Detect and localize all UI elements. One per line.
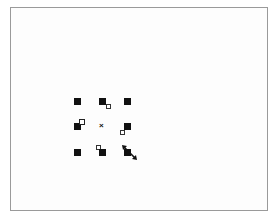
resize-handle-top-right[interactable] — [124, 98, 131, 105]
resize-handle-bottom-left[interactable] — [74, 149, 81, 156]
rotation-point-icon[interactable] — [79, 119, 85, 125]
resize-handle-top-left[interactable] — [74, 98, 81, 105]
resize-cursor-icon — [122, 145, 138, 161]
rotation-point-icon[interactable] — [106, 104, 111, 109]
center-point-icon[interactable]: × — [99, 122, 104, 130]
resize-handle-top-center[interactable] — [99, 98, 106, 105]
rotation-point-icon[interactable] — [120, 130, 125, 135]
resize-handle-middle-right[interactable] — [124, 123, 131, 130]
resize-handle-bottom-center[interactable] — [99, 149, 106, 156]
drawing-canvas[interactable] — [10, 7, 268, 211]
